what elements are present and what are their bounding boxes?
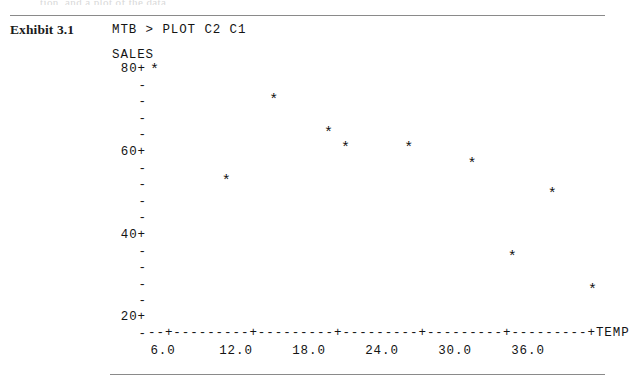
y-axis-dash: -: [112, 294, 146, 308]
data-point: *: [341, 140, 350, 155]
y-axis-dash: -: [112, 95, 146, 109]
x-axis-tick-12-0: 12.0: [219, 344, 253, 358]
data-point: *: [588, 282, 597, 297]
x-axis-line: --+---------+---------+---------+-------…: [148, 326, 630, 340]
data-point: *: [404, 140, 413, 155]
x-axis-tick-30-0: 30.0: [438, 344, 472, 358]
bottom-horizontal-rule: [110, 374, 605, 375]
y-axis-dash: -: [112, 327, 146, 341]
data-point: *: [269, 92, 278, 107]
x-axis-tick-24-0: 24.0: [365, 344, 399, 358]
y-axis-dash: -: [112, 245, 146, 259]
y-axis-dash: -: [112, 211, 146, 225]
y-axis-dash: -: [112, 261, 146, 275]
y-axis-dash: -: [112, 112, 146, 126]
data-point: *: [508, 249, 517, 264]
data-point: *: [324, 125, 333, 140]
data-point: *: [468, 156, 477, 171]
y-axis-tick-40: 40+: [112, 228, 146, 242]
x-axis-tick-6-0: 6.0: [150, 344, 175, 358]
y-axis-dash: -: [112, 128, 146, 142]
y-axis-dash: -: [112, 162, 146, 176]
data-point: *: [222, 173, 231, 188]
data-point: *: [548, 186, 557, 201]
y-axis-dash: -: [112, 195, 146, 209]
x-axis-tick-36-0: 36.0: [511, 344, 545, 358]
y-axis-tick-60: 60+: [112, 145, 146, 159]
y-axis-tick-20: 20+: [112, 310, 146, 324]
data-point: *: [150, 63, 159, 78]
y-axis-dash: -: [112, 178, 146, 192]
y-axis-tick-80: 80+: [112, 62, 146, 76]
y-axis-dash: -: [112, 79, 146, 93]
y-axis-dash: -: [112, 278, 146, 292]
x-axis-tick-18-0: 18.0: [292, 344, 326, 358]
